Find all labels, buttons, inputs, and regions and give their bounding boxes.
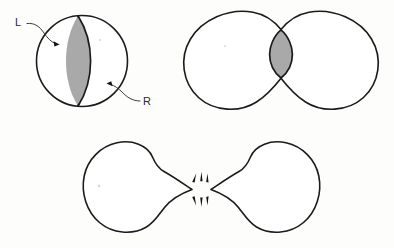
burst-marks-lower: [192, 196, 208, 207]
panel-separated-teardrops: [83, 142, 320, 232]
label-r-text: R: [143, 95, 151, 107]
burst-ray-lower-right: [206, 196, 208, 205]
label-l-text: L: [15, 16, 21, 28]
panel-undivided-sphere: L R: [15, 16, 151, 108]
burst-ray-upper-right: [206, 173, 208, 182]
burst-marks-upper: [192, 172, 208, 183]
burst-ray-upper-center: [200, 172, 202, 182]
paper-speck-3: [98, 185, 101, 188]
paper-speck: [99, 39, 101, 41]
paper-speck-2: [224, 45, 226, 47]
burst-ray-lower-left: [192, 196, 196, 205]
teardrop-right-outline: [211, 142, 320, 232]
panel-constricted-dumbbell: [184, 11, 379, 109]
fission-diagram: L R: [0, 0, 394, 248]
burst-ray-lower-center: [200, 198, 202, 208]
figure-root: L R: [0, 0, 394, 248]
burst-ray-upper-left: [192, 173, 196, 182]
